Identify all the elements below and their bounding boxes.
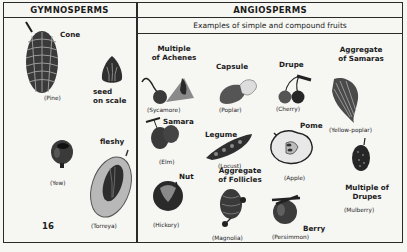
magnolia-illustration — [213, 186, 251, 232]
poplar-caption: (Poplar) — [219, 107, 242, 113]
label-line: Aggregate — [340, 45, 383, 54]
pine-cone-illustration — [18, 20, 60, 96]
label-line: Multiple of — [345, 183, 389, 192]
locust-illustration — [204, 132, 254, 162]
mulberry-illustration — [350, 138, 372, 172]
header-rule — [3, 17, 403, 18]
angiosperms-subheader: Examples of simple and compound fruits — [137, 21, 403, 30]
label-line: Aggregate — [219, 166, 262, 175]
torreya-illustration — [88, 150, 134, 220]
drupe-label: Drupe — [279, 60, 304, 69]
persimmon-illustration — [270, 194, 304, 226]
torreya-caption: (Torreya) — [91, 223, 117, 229]
seed-label-line1: seed — [93, 87, 112, 96]
sycamore-illustration — [140, 74, 196, 106]
cherry-illustration — [275, 70, 315, 104]
subheader-rule — [137, 33, 403, 34]
sycamore-caption: (Sycamore) — [147, 107, 180, 113]
angiosperms-header: ANGIOSPERMS — [137, 5, 403, 15]
hickory-illustration — [150, 176, 188, 214]
multiple-of-achenes-label: Multiple of Achenes — [148, 44, 200, 62]
column-divider — [136, 2, 138, 243]
label-line: of Samaras — [338, 54, 384, 63]
poplar-illustration — [216, 75, 260, 105]
seed-label-line2: on scale — [93, 96, 126, 105]
label-line: of Achenes — [152, 53, 197, 62]
yellow-poplar-caption: (Yellow-poplar) — [329, 127, 372, 133]
fleshy-label: fleshy — [100, 137, 124, 146]
cone-label: Cone — [60, 30, 80, 39]
page-number: 16 — [42, 221, 54, 231]
label-line: of Follicles — [218, 175, 261, 184]
seed-on-scale-label: seed on scale — [93, 87, 126, 105]
elm-illustration — [144, 116, 182, 152]
persimmon-caption: (Persimmon) — [272, 234, 309, 240]
cherry-caption: (Cherry) — [276, 106, 300, 112]
aggregate-of-samaras-label: Aggregate of Samaras — [330, 45, 392, 63]
pine-caption: (Pine) — [44, 95, 61, 101]
apple-caption: (Apple) — [284, 175, 305, 181]
yellow-poplar-illustration — [330, 75, 364, 125]
label-line: Drupes — [353, 192, 382, 201]
yew-caption: (Yew) — [50, 180, 66, 186]
capsule-label: Capsule — [216, 62, 248, 71]
aggregate-of-follicles-label: Aggregate of Follicles — [214, 166, 266, 184]
elm-caption: (Elm) — [159, 159, 174, 165]
yew-illustration — [50, 139, 74, 171]
apple-illustration — [268, 127, 316, 167]
label-line: Multiple — [157, 44, 190, 53]
seed-on-scale-illustration — [100, 55, 124, 85]
gymnosperms-header: GYMNOSPERMS — [3, 5, 136, 15]
mulberry-caption: (Mulberry) — [344, 207, 374, 213]
multiple-of-drupes-label: Multiple of Drupes — [339, 183, 395, 201]
magnolia-caption: (Magnolia) — [212, 235, 243, 241]
hickory-caption: (Hickory) — [153, 222, 179, 228]
berry-label: Berry — [303, 224, 325, 233]
